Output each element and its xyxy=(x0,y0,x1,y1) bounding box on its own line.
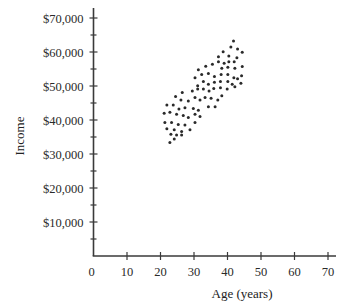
data-point xyxy=(233,67,236,70)
data-point xyxy=(165,104,168,107)
data-point xyxy=(217,60,220,63)
data-point xyxy=(163,112,166,115)
data-point xyxy=(229,45,232,48)
data-point xyxy=(236,77,239,80)
data-point xyxy=(181,91,184,94)
data-point xyxy=(202,80,205,83)
data-point xyxy=(220,73,223,76)
data-point xyxy=(220,94,223,97)
scatter-chart: $10,000$20,000$30,000$40,000$50,000$60,0… xyxy=(0,0,347,308)
data-point xyxy=(177,123,180,126)
data-point xyxy=(226,80,229,83)
data-point xyxy=(220,67,223,70)
data-point xyxy=(207,105,210,108)
data-point xyxy=(180,130,183,133)
data-point xyxy=(183,106,186,109)
data-point xyxy=(177,108,180,111)
data-point xyxy=(219,80,222,83)
data-point xyxy=(197,68,200,71)
data-point xyxy=(200,73,203,76)
data-point xyxy=(235,56,238,59)
data-point xyxy=(216,98,219,101)
data-point xyxy=(170,121,173,124)
y-tick-label: $20,000 xyxy=(43,182,84,196)
x-tick-label: 30 xyxy=(188,265,201,279)
data-point xyxy=(191,90,194,93)
y-tick-label: $70,000 xyxy=(43,12,84,26)
data-point xyxy=(217,55,220,58)
data-point xyxy=(212,87,215,90)
data-point xyxy=(196,88,199,91)
data-point xyxy=(173,138,176,141)
data-point xyxy=(222,50,225,53)
x-tick-label: 60 xyxy=(288,265,301,279)
data-point xyxy=(179,98,182,101)
data-point xyxy=(208,90,211,93)
x-tick-label: 0 xyxy=(88,265,94,279)
data-point xyxy=(241,65,244,68)
y-tick-label: $60,000 xyxy=(43,46,84,60)
data-point xyxy=(194,76,197,79)
data-point xyxy=(183,124,186,127)
data-point xyxy=(214,105,217,108)
data-point xyxy=(192,107,195,110)
data-point xyxy=(174,95,177,98)
data-point xyxy=(226,88,229,91)
data-point xyxy=(197,109,200,112)
data-point xyxy=(188,128,191,131)
data-point xyxy=(202,88,205,91)
x-tick-label: 70 xyxy=(322,265,335,279)
data-point xyxy=(231,83,234,86)
data-point xyxy=(165,127,168,130)
data-point xyxy=(173,128,176,131)
x-tick-label: 20 xyxy=(154,265,167,279)
data-point xyxy=(232,76,235,79)
data-point xyxy=(199,98,202,101)
axes xyxy=(93,8,336,256)
y-tick-label: $50,000 xyxy=(43,80,84,94)
data-points xyxy=(163,40,244,144)
x-tick-label: 10 xyxy=(121,265,134,279)
y-axis-title: Income xyxy=(12,116,27,155)
data-point xyxy=(196,84,199,87)
data-point xyxy=(210,97,213,100)
data-point xyxy=(194,96,197,99)
data-point xyxy=(194,113,197,116)
data-point xyxy=(240,74,243,77)
data-point xyxy=(204,65,207,68)
data-point xyxy=(213,75,216,78)
data-point xyxy=(226,73,229,76)
data-point xyxy=(226,66,229,69)
data-point xyxy=(223,62,226,65)
data-point xyxy=(233,85,236,88)
data-point xyxy=(204,96,207,99)
data-point xyxy=(175,113,178,116)
data-point xyxy=(219,86,222,89)
data-point xyxy=(187,116,190,119)
y-tick-label: $10,000 xyxy=(43,216,84,230)
x-tick-label: 50 xyxy=(255,265,268,279)
data-point xyxy=(168,141,171,144)
data-point xyxy=(172,104,175,107)
data-point xyxy=(187,99,190,102)
x-axis-title: Age (years) xyxy=(212,286,273,301)
data-point xyxy=(182,114,185,117)
data-point xyxy=(239,82,242,85)
data-point xyxy=(211,63,214,66)
data-point xyxy=(227,60,230,63)
x-tick-label: 40 xyxy=(221,265,234,279)
y-tick-label: $40,000 xyxy=(43,114,84,128)
data-point xyxy=(213,81,216,84)
data-point xyxy=(227,55,230,58)
data-point xyxy=(199,115,202,118)
data-point xyxy=(169,133,172,136)
data-point xyxy=(241,51,244,54)
data-point xyxy=(207,83,210,86)
data-point xyxy=(163,121,166,124)
data-point xyxy=(180,133,183,136)
data-point xyxy=(175,133,178,136)
data-point xyxy=(194,121,197,124)
data-point xyxy=(236,47,239,50)
data-point xyxy=(233,60,236,63)
data-point xyxy=(168,111,171,114)
